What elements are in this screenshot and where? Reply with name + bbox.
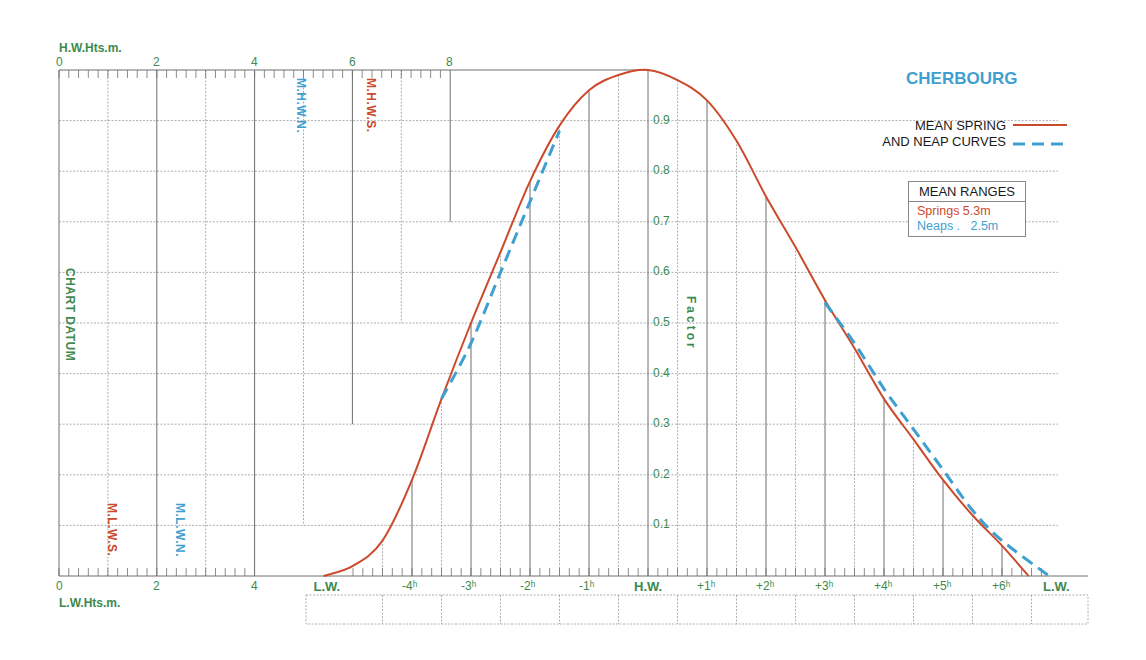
chart-datum-label: CHART DATUM — [63, 268, 77, 361]
factor-tick: 0.9 — [653, 113, 670, 127]
time-tick: +1ʰ — [697, 579, 715, 593]
time-tick: -1ʰ — [579, 579, 594, 593]
lw-tick: 2 — [153, 579, 160, 593]
factor-tick: 0.5 — [653, 315, 670, 329]
time-tick: L.W. — [1043, 579, 1070, 594]
neaps-range: Neaps . 2.5m — [909, 219, 1025, 236]
hw-tick: 4 — [251, 55, 258, 69]
neap-curve-right — [825, 303, 1049, 576]
factor-tick: 0.8 — [653, 163, 670, 177]
mean-ranges-box: MEAN RANGES Springs 5.3m Neaps . 2.5m — [908, 181, 1026, 237]
mhwn-marker: M.H.W.N. — [294, 78, 308, 133]
mlwn-marker: M.L.W.N. — [173, 503, 187, 557]
time-tick: L.W. — [314, 579, 341, 594]
chart-title: CHERBOURG — [906, 69, 1017, 89]
factor-label: Factor — [684, 296, 698, 351]
factor-tick: 0.2 — [653, 467, 670, 481]
mlws-marker: M.L.W.S. — [105, 503, 119, 556]
hw-tick: 2 — [153, 55, 160, 69]
factor-tick: 0.1 — [653, 517, 670, 531]
hw-tick: 6 — [349, 55, 356, 69]
time-tick: -3ʰ — [461, 579, 476, 593]
time-tick: -4ʰ — [402, 579, 417, 593]
factor-tick: 0.4 — [653, 366, 670, 380]
tidal-curve-chart — [0, 0, 1146, 660]
factor-tick: 0.6 — [653, 264, 670, 278]
mhws-marker: M.H.W.S. — [364, 78, 378, 133]
time-tick: +2ʰ — [756, 579, 774, 593]
time-tick: +5ʰ — [933, 579, 951, 593]
hw-tick: 8 — [446, 55, 453, 69]
time-tick: +4ʰ — [874, 579, 892, 593]
time-tick: +3ʰ — [815, 579, 833, 593]
factor-tick: 0.3 — [653, 416, 670, 430]
hw-heights-label: H.W.Hts.m. — [59, 41, 122, 55]
time-tick: -2ʰ — [520, 579, 535, 593]
lw-heights-label: L.W.Hts.m. — [59, 596, 120, 610]
lw-tick: 4 — [251, 579, 258, 593]
legend-line-1: MEAN SPRING — [915, 118, 1006, 133]
mean-ranges-header: MEAN RANGES — [909, 182, 1025, 202]
springs-range: Springs 5.3m — [909, 202, 1025, 219]
lw-tick: 0 — [56, 579, 63, 593]
factor-tick: 0.7 — [653, 214, 670, 228]
hw-tick: 0 — [56, 55, 63, 69]
legend-line-2: AND NEAP CURVES — [882, 134, 1006, 149]
time-tick: +6ʰ — [992, 579, 1010, 593]
time-tick: H.W. — [634, 579, 662, 594]
